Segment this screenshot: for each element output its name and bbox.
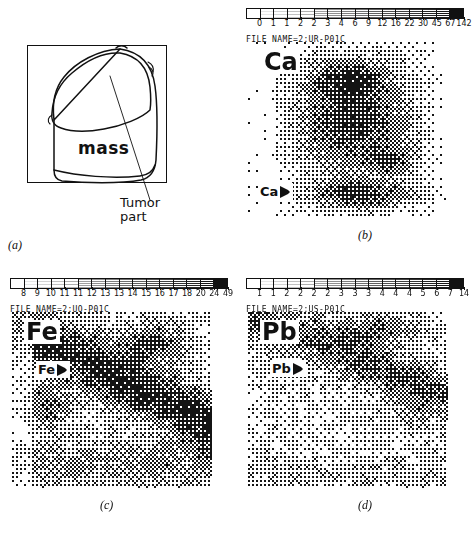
scale-tick-label: 4 — [407, 289, 412, 298]
color-scale-d: 11222233344456714 FILE NAME=2:US-P01C — [246, 278, 464, 314]
color-bar-segment — [423, 9, 437, 18]
color-bar-segment — [450, 279, 463, 288]
color-bar-segment — [315, 279, 329, 288]
scale-tick-label: 18 — [182, 289, 192, 298]
scale-tick-label: 14 — [459, 289, 469, 298]
color-bar-segment — [52, 279, 66, 288]
scale-tick-label: 1 — [257, 289, 262, 298]
scale-tick-label: 9 — [366, 19, 371, 28]
arrow-right-icon — [57, 363, 68, 377]
scale-tick-label: 1 — [271, 289, 276, 298]
color-bar-segment — [342, 279, 356, 288]
color-bar-segment — [65, 279, 79, 288]
scale-tick-label: 0 — [257, 19, 262, 28]
color-bar-segment — [25, 279, 39, 288]
color-bar-segment — [201, 279, 215, 288]
color-bar-segment — [301, 9, 315, 18]
scale-tick-label: 3 — [339, 289, 344, 298]
tumor-part-label: Tumor part — [120, 196, 160, 224]
scale-ticks-b: 011223469121622304567142 — [246, 19, 464, 32]
caption-b: (b) — [358, 228, 372, 243]
color-bar-segment — [423, 279, 437, 288]
scale-tick-label: 45 — [432, 19, 442, 28]
scale-tick-label: 4 — [339, 19, 344, 28]
scale-tick-label: 9 — [35, 289, 40, 298]
scale-tick-label: 16 — [391, 19, 401, 28]
color-bar-segment — [92, 279, 106, 288]
scale-tick-label: 49 — [223, 289, 233, 298]
color-bar-segment — [383, 9, 397, 18]
color-bar-segment — [450, 9, 463, 18]
color-bar-segment — [410, 9, 424, 18]
arrow-right-icon — [293, 362, 304, 376]
color-bar-segment — [247, 9, 261, 18]
color-bar-segment — [315, 9, 329, 18]
color-bar-segment — [38, 279, 52, 288]
scale-tick-label: 24 — [209, 289, 219, 298]
color-bar-segment — [342, 9, 356, 18]
color-bar-segment — [11, 279, 25, 288]
color-bar-segment — [133, 279, 147, 288]
color-bar-segment — [274, 9, 288, 18]
scale-tick-label: 12 — [87, 289, 97, 298]
color-bar-segment — [187, 279, 201, 288]
element-label-ca: Ca — [262, 50, 300, 74]
color-bar-segment — [106, 279, 120, 288]
pb-arrow-label: Pb — [272, 361, 291, 376]
tumor-outline-drawing — [0, 0, 236, 270]
color-bar-segment — [174, 279, 188, 288]
scale-tick-label: 15 — [141, 289, 151, 298]
color-bar-segment — [214, 279, 227, 288]
scale-tick-label: 142 — [456, 19, 471, 28]
ca-arrow-tag: Ca — [258, 183, 293, 200]
color-bar-segment — [274, 279, 288, 288]
caption-a: (a) — [8, 238, 22, 253]
scale-tick-label: 1 — [284, 19, 289, 28]
color-bar-segment — [79, 279, 93, 288]
pb-distribution-map: Pb Pb — [248, 312, 448, 488]
scale-tick-label: 67 — [445, 19, 455, 28]
scale-tick-label: 30 — [418, 19, 428, 28]
color-bar-segment — [288, 279, 302, 288]
fe-arrow-label: Fe — [38, 362, 55, 377]
panel-d-pb-map: 11222233344456714 FILE NAME=2:US-P01C Pb… — [236, 270, 473, 541]
tumor-label-line2: part — [120, 209, 147, 224]
scale-tick-label: 2 — [298, 19, 303, 28]
scale-tick-label: 14 — [128, 289, 138, 298]
scale-tick-label: 2 — [312, 289, 317, 298]
caption-d: (d) — [358, 498, 372, 513]
caption-c: (c) — [100, 498, 113, 513]
ca-arrow-label: Ca — [260, 184, 278, 199]
color-scale-b: 011223469121622304567142 FILE NAME=2:UR-… — [246, 8, 464, 44]
scale-tick-label: 2 — [284, 289, 289, 298]
tumor-label-line1: Tumor — [120, 195, 160, 210]
scale-tick-label: 4 — [380, 289, 385, 298]
mass-label: mass — [78, 138, 129, 158]
pb-arrow-tag: Pb — [270, 360, 306, 377]
arrow-right-icon — [280, 185, 291, 199]
element-label-fe: Fe — [24, 320, 60, 344]
color-bar-segment — [301, 279, 315, 288]
color-bar-segment — [328, 279, 342, 288]
color-bar-segment — [120, 279, 134, 288]
color-bar-segment — [328, 9, 342, 18]
scale-tick-label: 3 — [352, 289, 357, 298]
scale-tick-label: 4 — [393, 289, 398, 298]
scale-tick-label: 16 — [155, 289, 165, 298]
scale-tick-label: 11 — [59, 289, 69, 298]
color-bar-segment — [147, 279, 161, 288]
color-bar-segment — [356, 279, 370, 288]
color-bar-segment — [437, 279, 451, 288]
scale-tick-label: 3 — [325, 19, 330, 28]
scale-tick-label: 17 — [168, 289, 178, 298]
fe-arrow-tag: Fe — [36, 361, 70, 378]
scale-tick-label: 6 — [352, 19, 357, 28]
ca-distribution-map: Ca Ca — [248, 42, 448, 218]
color-bar-segment — [396, 279, 410, 288]
scale-tick-label: 3 — [366, 289, 371, 298]
scale-ticks-d: 11222233344456714 — [246, 289, 464, 302]
color-bar-segment — [410, 279, 424, 288]
color-bar-segment — [369, 9, 383, 18]
scale-tick-label: 10 — [46, 289, 56, 298]
color-bar-segment — [356, 9, 370, 18]
